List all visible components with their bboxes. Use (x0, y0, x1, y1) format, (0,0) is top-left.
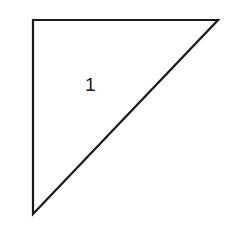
triangle-label: 1 (85, 74, 96, 95)
diagram-canvas: 1 (0, 0, 234, 237)
triangle-shape (33, 20, 218, 214)
